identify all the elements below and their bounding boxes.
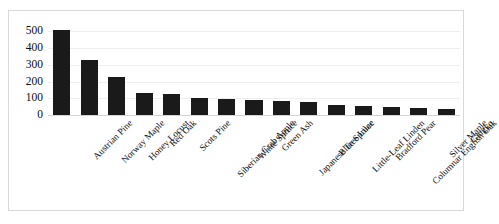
- y-axis: 0100200300400500: [9, 28, 45, 115]
- bar: [410, 108, 427, 115]
- y-tick-label: 400: [26, 42, 43, 54]
- bars-layer: [48, 28, 460, 115]
- bar: [300, 102, 317, 115]
- x-tick-label: Scots Pine: [197, 118, 232, 153]
- y-tick-label: 0: [37, 109, 43, 121]
- x-tick-label: Blue Spruce: [336, 118, 376, 158]
- bar: [108, 77, 125, 115]
- bar: [245, 100, 262, 115]
- x-axis: Austrian PineNorway MapleHoney LocustRed…: [48, 115, 460, 211]
- y-tick-label: 200: [26, 76, 43, 88]
- bar: [218, 99, 235, 115]
- x-tick-label: Little-Leaf Linden: [371, 118, 427, 174]
- bar-chart: 0100200300400500 Austrian PineNorway Map…: [8, 10, 464, 211]
- bar: [191, 98, 208, 115]
- bar: [383, 107, 400, 115]
- bar: [53, 30, 70, 115]
- y-tick-label: 500: [26, 26, 43, 38]
- bar: [81, 60, 98, 115]
- bar: [163, 94, 180, 115]
- bar: [328, 105, 345, 115]
- bar: [355, 106, 372, 115]
- bar: [273, 101, 290, 115]
- y-tick-label: 100: [26, 93, 43, 105]
- bar: [136, 93, 153, 115]
- y-tick-label: 300: [26, 59, 43, 71]
